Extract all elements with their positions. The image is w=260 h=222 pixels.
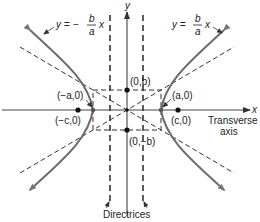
- negative-asymptote-equation: y = − b a x: [55, 13, 105, 37]
- svg-text:x: x: [98, 19, 105, 30]
- svg-text:b: b: [195, 13, 201, 24]
- pos-vertex-label: (a,0): [172, 90, 193, 101]
- bottom-co-vertex-point: [124, 127, 129, 132]
- bottom-co-vertex-label: (0,−b): [129, 136, 155, 147]
- pos-focus-label: (c,0): [171, 115, 191, 126]
- transverse-axis-label-line2: axis: [220, 126, 238, 137]
- top-co-vertex-point: [124, 87, 129, 92]
- svg-text:x: x: [204, 19, 211, 30]
- hyperbola-diagram: x y (−a,0) (a,0) (−c,0) (c,0) (0,b) (0,−…: [0, 0, 260, 222]
- neg-vertex-label: (−a,0): [57, 90, 83, 101]
- directrices-pointer-left: [106, 202, 109, 208]
- pos-focus-point: [175, 107, 180, 112]
- positive-asymptote-equation: y = b a x: [171, 13, 211, 37]
- svg-text:y = −: y = −: [55, 19, 78, 30]
- x-axis-label: x: [251, 104, 258, 115]
- top-co-vertex-label: (0,b): [130, 76, 151, 87]
- y-axis-label: y: [124, 0, 131, 11]
- neg-focus-label: (−c,0): [55, 115, 81, 126]
- neg-focus-point: [75, 107, 80, 112]
- svg-text:a: a: [89, 26, 95, 37]
- directrices-label: Directrices: [103, 209, 150, 220]
- neg-vertex-point: [91, 108, 95, 112]
- positive-asymptote-pointer: [213, 27, 222, 33]
- svg-text:y =: y =: [171, 19, 186, 30]
- transverse-axis-label-line1: Transverse: [208, 115, 258, 126]
- svg-text:b: b: [89, 13, 95, 24]
- svg-text:a: a: [195, 26, 201, 37]
- pos-vertex-point: [159, 108, 163, 112]
- directrices-pointer-right: [144, 202, 147, 208]
- center-point: [125, 108, 129, 112]
- negative-asymptote-pointer: [44, 27, 54, 34]
